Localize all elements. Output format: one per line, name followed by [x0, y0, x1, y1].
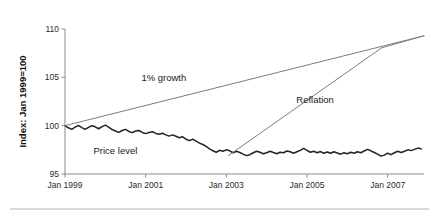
x-tick-label: Jan 1999	[48, 180, 83, 190]
annotation-price-level: Price level	[94, 145, 138, 156]
y-tick-label: 105	[45, 72, 59, 82]
chart-figure: 95100105110Jan 1999Jan 2001Jan 2003Jan 2…	[0, 0, 439, 218]
y-tick-label: 100	[45, 121, 59, 131]
annotation-reflation: Reflation	[296, 94, 334, 105]
x-tick-label: Jan 2003	[209, 180, 244, 190]
y-axis-title: Index: Jan 1999=100	[17, 55, 28, 147]
y-tick-label: 95	[50, 169, 60, 179]
price-level-chart: 95100105110Jan 1999Jan 2001Jan 2003Jan 2…	[0, 0, 439, 218]
annotation-one-percent-growth: 1% growth	[141, 72, 186, 83]
series-line-1-growth	[65, 36, 424, 126]
y-tick-label: 110	[45, 24, 59, 34]
x-tick-label: Jan 2005	[290, 180, 325, 190]
x-tick-label: Jan 2001	[128, 180, 163, 190]
x-tick-label: Jan 2007	[370, 180, 405, 190]
